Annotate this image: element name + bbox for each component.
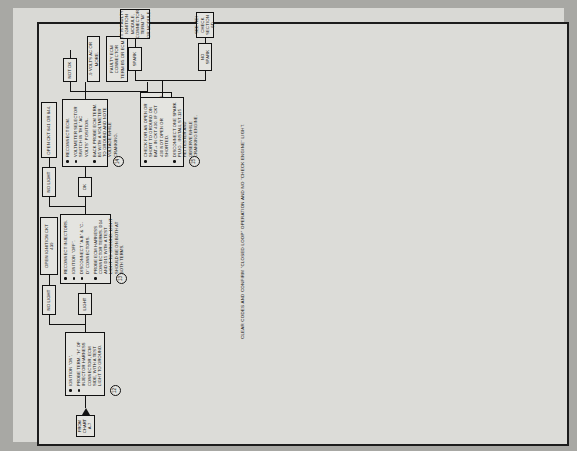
step-15-bullet-0: CHECK FOR AN OPEN OR SHORT TO GROUND ON …	[143, 101, 169, 163]
spark-to-result	[135, 39, 136, 47]
step-15-branch-riser	[135, 80, 205, 81]
result-faulty-ecm-label: FAULTY ECM CONNECTOR TERM B5 OR ECM.	[109, 39, 125, 79]
result-open-ignition-box: OPEN IGNITION CKT 439	[40, 217, 58, 275]
result-faulty-ecm-box: FAULTY ECM CONNECTOR TERM B5 OR ECM.	[106, 36, 128, 82]
step-14-box: RECONNECT ECM. VOLTMETER SELECTOR SWITCH…	[62, 99, 108, 167]
step-12-branch-riser	[49, 324, 85, 325]
step-13-bullet-1: IGNITION "OFF".	[71, 218, 76, 280]
no-spark-connector	[205, 71, 206, 81]
branch-spark-label: SPARK	[132, 52, 137, 67]
step-15-bullets: CHECK FOR AN OPEN OR SHORT TO GROUND ON …	[143, 101, 198, 163]
step-15-number: 15	[189, 156, 200, 167]
step-14-bullet-2: BACK PROBE ECM TERM. B5 WITH A VOLTMETER…	[92, 103, 118, 163]
not-ok-connector	[70, 82, 71, 92]
start-arrowhead	[82, 408, 90, 415]
no-light-1-to-result	[49, 275, 50, 285]
no-spark-to-result	[205, 38, 206, 43]
step-13-bullet-2: DISCONNECT "A-B" & "C-D" CONNECTORS.	[79, 218, 89, 280]
result-see-hei-box: SEE HEI CHECK SECTION 6D	[196, 12, 214, 38]
no-light-2-connector	[49, 197, 50, 207]
paper-sheet: FROM CHART A-7 IGNITION "ON". PROBE TERM…	[13, 8, 564, 442]
step-15-box: CHECK FOR AN OPEN OR SHORT TO GROUND ON …	[140, 97, 184, 167]
branch-nine-volts-label: .9 VOLTS AC OR MORE.	[88, 39, 99, 79]
branch-light: LIGHT	[78, 293, 92, 315]
step-13-box: RECONNECT INJECTORS. IGNITION "OFF". DIS…	[60, 214, 111, 284]
branch-light-label: LIGHT	[82, 297, 87, 310]
bottom-note: CLEAR CODES AND CONFIRM "CLOSED LOOP" OP…	[240, 123, 245, 339]
step-14-bullets: RECONNECT ECM. VOLTMETER SELECTOR SWITCH…	[65, 103, 118, 163]
connector-start-to-step12	[85, 396, 86, 408]
page-border-frame: FROM CHART A-7 IGNITION "ON". PROBE TERM…	[37, 22, 569, 446]
step-15-out	[162, 81, 163, 97]
rotated-diagram-wrapper: FROM CHART A-7 IGNITION "ON". PROBE TERM…	[40, 25, 566, 443]
branch-no-light-2: NO LIGHT	[42, 167, 56, 197]
branch-not-ok-label: NOT OK	[67, 62, 72, 79]
flowchart-canvas: FROM CHART A-7 IGNITION "ON". PROBE TERM…	[40, 25, 566, 443]
not-ok-to-result	[70, 50, 71, 58]
step-12-number: 12	[110, 385, 121, 396]
step-14-bullet-0: RECONNECT ECM.	[65, 103, 70, 163]
branch-ok: OK	[78, 177, 92, 197]
less-than-connector	[147, 82, 148, 92]
step-14-down-riser	[85, 91, 147, 92]
step-12-bullet-1: PROBE TERM. "H" OF INJECTOR HARNESS CONN…	[76, 336, 102, 392]
step-13-number: 13	[116, 273, 127, 284]
step-13-bullets: RECONNECT INJECTORS. IGNITION "OFF". DIS…	[63, 218, 124, 280]
light-branch-connector	[85, 315, 86, 332]
step-13-bullet-0: RECONNECT INJECTORS.	[63, 218, 68, 280]
branch-no-light-1: NO LIGHT	[42, 285, 56, 315]
start-label-line3: A-7	[88, 416, 93, 436]
result-see-hei-label: SEE HEI CHECK SECTION 6D	[194, 15, 216, 35]
branch-nine-volts-or-more: .9 VOLTS AC OR MORE.	[87, 36, 100, 82]
step-13-out	[85, 197, 86, 214]
start-symbol: FROM CHART A-7	[76, 415, 95, 437]
step-14-bullet-1: VOLTMETER SELECTOR SWITCH IN THE "AC VOL…	[73, 103, 89, 163]
ok-to-step14	[85, 167, 86, 177]
result-open-ckt-box: OPEN CKT 841 OR 844.	[41, 102, 57, 158]
step-12-bullets: IGNITION "ON". PROBE TERM. "H" OF INJECT…	[68, 336, 102, 392]
branch-no-spark-label: NO SPARK	[200, 46, 211, 68]
step-14-branch-riser	[70, 91, 85, 92]
branch-no-spark: NO SPARK	[198, 43, 212, 71]
no-light-2-to-result	[49, 158, 50, 167]
step-13-bullet-3: PROBE ECM HARNESS CONNECTOR TERMS. D14 A…	[93, 218, 124, 280]
light-to-step13	[85, 284, 86, 293]
branch-spark: SPARK	[128, 47, 142, 71]
step-13-branch-riser	[49, 206, 85, 207]
branch-no-light-2-label: NO LIGHT	[46, 172, 51, 193]
result-faulty-module-label: IT IS FAULTY IGNITION MODULE, CONNECTOR …	[119, 10, 151, 38]
result-faulty-module-box: IT IS FAULTY IGNITION MODULE, CONNECTOR …	[120, 9, 150, 39]
step-15-bullet-1: DISCONNECT ONE SPARK PLUG . INSTALL ST-1…	[172, 101, 198, 163]
step-12-bullet-0: IGNITION "ON".	[68, 336, 73, 392]
screenshot-root: FROM CHART A-7 IGNITION "ON". PROBE TERM…	[0, 0, 577, 451]
result-open-ignition-label: OPEN IGNITION CKT 439	[44, 220, 55, 272]
branch-not-ok: NOT OK	[63, 58, 77, 82]
step-12-box: IGNITION "ON". PROBE TERM. "H" OF INJECT…	[65, 332, 105, 396]
branch-ok-label: OK	[82, 184, 87, 190]
no-light-1-connector	[49, 315, 50, 325]
result-open-ckt-label: OPEN CKT 841 OR 844.	[46, 105, 51, 154]
branch-no-light-1-label: NO LIGHT	[46, 290, 51, 311]
spark-connector	[135, 71, 136, 81]
step-14-number: 14	[113, 156, 124, 167]
